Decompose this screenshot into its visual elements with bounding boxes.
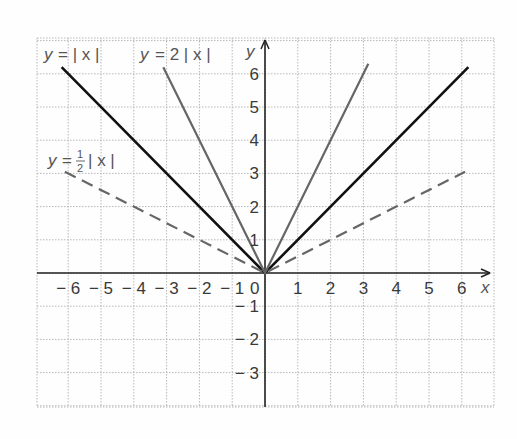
y-axis-label: y: [245, 42, 256, 61]
y-tick-label: − 2: [235, 330, 259, 349]
y-tick-label: 4: [250, 131, 259, 150]
x-tick-label: 5: [424, 279, 433, 298]
axes: [37, 40, 490, 407]
tick-labels: − 6− 5− 4− 3− 2− 10123456− 3− 2− 1123456: [56, 65, 466, 383]
x-tick-label: − 6: [56, 279, 80, 298]
x-tick-label: 3: [359, 279, 368, 298]
y-tick-label: 1: [250, 231, 259, 250]
chart: − 6− 5− 4− 3− 2− 10123456− 3− 2− 1123456…: [0, 0, 517, 439]
x-tick-label: − 2: [187, 279, 211, 298]
legend-label-abs-x: y = | x |: [43, 45, 99, 64]
x-tick-label: 0: [250, 279, 259, 298]
x-tick-label: 6: [457, 279, 466, 298]
svg-text:2: 2: [77, 162, 83, 174]
x-tick-label: − 1: [220, 279, 244, 298]
svg-text:=: =: [62, 151, 72, 170]
y-tick-label: 6: [250, 65, 259, 84]
legend-label-half-abs-x: y = 1 2 | x |: [47, 148, 115, 174]
x-tick-label: 2: [326, 279, 335, 298]
x-axis-label: x: [480, 278, 490, 297]
x-tick-label: − 3: [155, 279, 179, 298]
svg-text:1: 1: [77, 148, 83, 160]
x-tick-label: − 4: [122, 279, 146, 298]
svg-text:y: y: [47, 151, 58, 170]
y-tick-label: 5: [250, 98, 259, 117]
svg-text:= | x |: = | x |: [58, 45, 99, 64]
legend-label-2-abs-x: y = 2 | x |: [139, 45, 211, 64]
svg-text:= 2 | x |: = 2 | x |: [155, 45, 211, 64]
y-tick-label: − 3: [235, 364, 259, 383]
svg-text:| x |: | x |: [88, 151, 115, 170]
x-tick-label: − 5: [89, 279, 113, 298]
x-tick-label: 1: [293, 279, 302, 298]
series-line: [163, 64, 368, 273]
y-tick-label: − 1: [235, 297, 259, 316]
y-tick-label: 3: [250, 164, 259, 183]
x-tick-label: 4: [391, 279, 400, 298]
svg-text:y: y: [139, 45, 150, 64]
svg-text:y: y: [43, 45, 54, 64]
y-tick-label: 2: [250, 198, 259, 217]
